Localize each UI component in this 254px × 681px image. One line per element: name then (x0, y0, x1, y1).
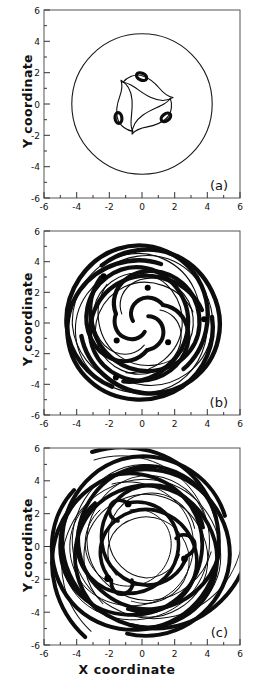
xtick-label: -4 (72, 202, 81, 212)
xtick-label: -2 (105, 649, 114, 659)
panel-c-plot: 6 4 2 0 -2 -4 -6 -6 -4 -2 0 2 4 6 (0, 438, 254, 681)
xtick-label: -6 (40, 419, 49, 429)
spiral-tip (113, 374, 119, 380)
xtick-label: 2 (172, 419, 178, 429)
spiral-tip (104, 575, 111, 582)
ytick-label: 0 (34, 319, 40, 329)
spiral-tip (201, 316, 207, 322)
spiral-tip (125, 501, 132, 508)
ytick-label: 4 (34, 37, 40, 47)
xtick-label: -2 (105, 202, 114, 212)
panel-a: 6 4 2 0 -2 -4 -6 -6 -4 -2 0 2 4 6 (0, 0, 254, 215)
xtick-label: -6 (40, 649, 49, 659)
panel-a-plot: 6 4 2 0 -2 -4 -6 -6 -4 -2 0 2 4 6 (0, 0, 254, 215)
xtick-label: 0 (139, 202, 145, 212)
xtick-label: -2 (105, 419, 114, 429)
ytick-label: 4 (34, 257, 40, 267)
panel-c-xtick-labels: -6 -4 -2 0 2 4 6 (40, 649, 244, 659)
xtick-label: 2 (172, 202, 178, 212)
ytick-label: 0 (34, 542, 40, 552)
panel-label-b: (b) (210, 395, 228, 410)
ytick-label: 0 (34, 100, 40, 110)
ytick-label: 6 (34, 444, 40, 454)
xtick-label: -4 (72, 419, 81, 429)
spiral-tip (145, 285, 151, 291)
panel-b: 6 4 2 0 -2 -4 -6 -6 -4 -2 0 2 4 6 (0, 221, 254, 443)
xtick-label: -6 (40, 202, 49, 212)
ytick-label: -4 (31, 380, 40, 390)
panel-a-frame (44, 10, 240, 198)
panel-label-c: (c) (211, 625, 228, 640)
xtick-label: -4 (72, 649, 81, 659)
panel-b-xtick-labels: -6 -4 -2 0 2 4 6 (40, 419, 244, 429)
ytick-label: 6 (34, 6, 40, 16)
ytick-label: 6 (34, 227, 40, 237)
ytick-label: -4 (31, 608, 40, 618)
spiral-tip (165, 339, 171, 345)
ytick-label: 2 (34, 288, 40, 298)
ytick-label: 2 (34, 68, 40, 78)
panel-label-a: (a) (210, 178, 228, 193)
figure-root: 6 4 2 0 -2 -4 -6 -6 -4 -2 0 2 4 6 (0, 0, 254, 681)
xtick-label: 6 (237, 649, 243, 659)
ytick-label: 4 (34, 476, 40, 486)
panel-c-ytick-labels: 6 4 2 0 -2 -4 -6 (31, 444, 40, 651)
xtick-label: 0 (139, 649, 145, 659)
xtick-label: 6 (237, 202, 243, 212)
spiral-tip (101, 273, 107, 279)
xtick-label: 0 (139, 419, 145, 429)
ytick-label: -4 (31, 162, 40, 172)
panel-c: 6 4 2 0 -2 -4 -6 -6 -4 -2 0 2 4 6 (0, 438, 254, 681)
ytick-label: 2 (34, 509, 40, 519)
xtick-label: 6 (237, 419, 243, 429)
ytick-label: -2 (31, 131, 40, 141)
ytick-label: -2 (31, 349, 40, 359)
panel-b-ytick-labels: 6 4 2 0 -2 -4 -6 (31, 227, 40, 421)
ytick-label: -2 (31, 575, 40, 585)
panel-a-ytick-labels: 6 4 2 0 -2 -4 -6 (31, 6, 40, 204)
panel-b-plot: 6 4 2 0 -2 -4 -6 -6 -4 -2 0 2 4 6 (0, 221, 254, 443)
xtick-label: 2 (172, 649, 178, 659)
spiral-tip (114, 338, 120, 344)
spiral-tip (181, 555, 188, 562)
xtick-label: 4 (204, 202, 210, 212)
xtick-label: 4 (204, 649, 210, 659)
panel-a-xtick-labels: -6 -4 -2 0 2 4 6 (40, 202, 244, 212)
xtick-label: 4 (204, 419, 210, 429)
x-axis-label: X coordinate (0, 662, 254, 677)
